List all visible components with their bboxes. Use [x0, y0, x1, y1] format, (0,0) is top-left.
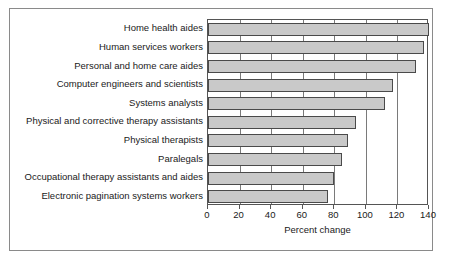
bar-series	[208, 20, 427, 204]
bar	[208, 116, 356, 129]
x-tick-label: 120	[388, 209, 404, 220]
y-axis-label: Computer engineers and scientists	[57, 78, 203, 89]
bar	[208, 60, 416, 73]
x-tick-label: 100	[357, 209, 373, 220]
y-axis-label: Human services workers	[99, 41, 203, 52]
chart-figure: Home health aidesHuman services workersP…	[0, 0, 450, 267]
y-axis-label: Paralegals	[158, 153, 203, 164]
x-tick-label: 40	[265, 209, 276, 220]
bar	[208, 153, 342, 166]
plot-area	[207, 19, 428, 205]
bar	[208, 134, 348, 147]
bar	[208, 23, 429, 36]
x-tick-label: 20	[233, 209, 244, 220]
x-tick-label: 60	[296, 209, 307, 220]
y-axis-label: Physical therapists	[124, 134, 203, 145]
y-axis-label: Personal and home care aides	[74, 60, 203, 71]
bar	[208, 190, 328, 203]
y-axis-label: Systems analysts	[129, 97, 203, 108]
x-tick-label: 0	[204, 209, 209, 220]
y-axis-label: Home health aides	[124, 22, 203, 33]
x-axis-ticks: 020406080100120140	[207, 205, 428, 221]
bar	[208, 172, 334, 185]
y-axis-label: Occupational therapy assistants and aide…	[25, 171, 204, 182]
y-axis-category-labels: Home health aidesHuman services workersP…	[10, 19, 203, 205]
y-axis-label: Physical and corrective therapy assistan…	[26, 115, 203, 126]
bar	[208, 41, 424, 54]
y-axis-label: Electronic pagination systems workers	[41, 190, 203, 201]
x-tick-label: 140	[420, 209, 436, 220]
bar	[208, 97, 385, 110]
x-axis-title: Percent change	[207, 224, 428, 235]
bar	[208, 79, 393, 92]
x-tick-label: 80	[328, 209, 339, 220]
